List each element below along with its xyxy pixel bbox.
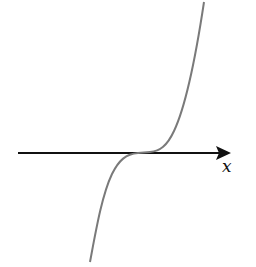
cubic-curve — [90, 2, 204, 262]
cubic-graph: x — [0, 0, 256, 267]
x-axis-label: x — [222, 156, 232, 176]
